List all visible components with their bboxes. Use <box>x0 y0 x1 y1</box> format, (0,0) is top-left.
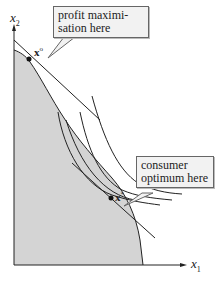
production-set <box>14 50 143 265</box>
y-axis-label: x2 <box>10 10 20 28</box>
point-x-o <box>27 57 32 62</box>
callout-consumer-line2: optimum here <box>141 172 209 185</box>
point-x-o-label: xo <box>34 45 43 58</box>
callout-profit-pointer <box>48 37 75 58</box>
callout-profit-maximisation: profit maximi- sation here <box>53 6 149 38</box>
callout-consumer-optimum: consumer optimum here <box>136 156 214 188</box>
diagram-canvas <box>0 0 217 283</box>
callout-profit-line2: sation here <box>58 22 144 35</box>
x-axis-label: x1 <box>191 256 201 274</box>
point-x-star-label: x* <box>115 190 124 203</box>
x-axis-arrow-icon <box>180 263 187 267</box>
point-x-star <box>109 196 114 201</box>
